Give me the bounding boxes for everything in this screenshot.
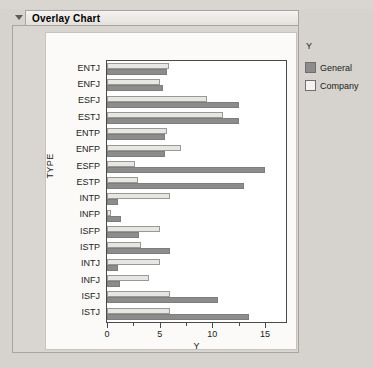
bar-general[interactable] xyxy=(107,232,139,238)
y-axis-tick-label: ISFJ xyxy=(81,292,100,301)
bar-group xyxy=(107,143,286,159)
panel-title: Overlay Chart xyxy=(26,13,100,24)
y-axis-tick-label: ENFJ xyxy=(78,80,101,89)
legend-title: Y xyxy=(305,41,367,51)
bar-group xyxy=(107,208,286,224)
overlay-chart-panel: Overlay Chart TYPE ENTJENFJESFJESTJENTPE… xyxy=(12,9,299,353)
bar-general[interactable] xyxy=(107,134,165,140)
bar-group xyxy=(107,94,286,110)
x-axis-tick-label: 0 xyxy=(104,329,109,339)
bar-general[interactable] xyxy=(107,69,167,75)
bar-general[interactable] xyxy=(107,85,163,91)
y-axis-tick-label: ESTJ xyxy=(78,113,100,122)
bar-group xyxy=(107,77,286,93)
legend-swatch-filled-icon xyxy=(305,62,316,73)
bar-group xyxy=(107,192,286,208)
bars-layer xyxy=(107,61,286,322)
page-background-top xyxy=(0,0,373,9)
panel-header[interactable]: Overlay Chart xyxy=(12,9,299,26)
chart-legend: Y General Company xyxy=(305,41,367,98)
x-axis-tick xyxy=(239,323,240,326)
x-axis-tick-label: 10 xyxy=(207,329,217,339)
bar-general[interactable] xyxy=(107,281,120,287)
y-axis-tick-label: INFP xyxy=(79,210,100,219)
y-axis-tick-label: ESFP xyxy=(76,162,100,171)
bar-group xyxy=(107,110,286,126)
x-axis: Y 051015 xyxy=(106,323,287,353)
bar-group xyxy=(107,289,286,305)
legend-swatch-outline-icon xyxy=(305,80,316,91)
bar-general[interactable] xyxy=(107,183,244,189)
bar-group xyxy=(107,273,286,289)
bar-general[interactable] xyxy=(107,314,249,320)
y-axis-tick-label: ISFP xyxy=(80,227,100,236)
bar-general[interactable] xyxy=(107,265,118,271)
bar-general[interactable] xyxy=(107,118,239,124)
bar-group xyxy=(107,257,286,273)
x-axis-tick xyxy=(265,323,266,328)
bar-group xyxy=(107,240,286,256)
x-axis-tick xyxy=(133,323,134,326)
legend-item-label: Company xyxy=(320,81,359,91)
x-axis-tick xyxy=(212,323,213,328)
bar-group xyxy=(107,159,286,175)
y-axis-tick-label: ENTJ xyxy=(78,64,101,73)
bar-general[interactable] xyxy=(107,102,239,108)
bar-general[interactable] xyxy=(107,167,265,173)
x-axis-tick xyxy=(160,323,161,328)
triangle-down-glyph xyxy=(15,15,23,20)
panel-body: TYPE ENTJENFJESFJESTJENTPENFPESFPESTPINT… xyxy=(12,25,299,353)
plot-area xyxy=(106,60,287,323)
bar-group xyxy=(107,126,286,142)
y-axis-tick-label: ESFJ xyxy=(78,96,100,105)
triangle-down-icon[interactable] xyxy=(12,9,25,26)
y-axis-tick-label: ISTJ xyxy=(81,308,100,317)
bar-group xyxy=(107,224,286,240)
bar-group xyxy=(107,306,286,322)
y-axis-tick-label: ENTP xyxy=(76,129,100,138)
panel-title-tab[interactable]: Overlay Chart xyxy=(25,10,299,26)
y-axis-tick-label: INFJ xyxy=(81,276,100,285)
chart-canvas: TYPE ENTJENFJESFJESTJENTPENFPESFPESTPINT… xyxy=(45,32,297,350)
bar-general[interactable] xyxy=(107,199,118,205)
y-axis-tick-label: ISTP xyxy=(80,243,100,252)
bar-group xyxy=(107,61,286,77)
bar-general[interactable] xyxy=(107,297,218,303)
legend-item-label: General xyxy=(320,63,352,73)
y-axis-tick-label: ESTP xyxy=(76,178,100,187)
y-axis-tick-label: INTJ xyxy=(81,259,100,268)
y-axis-tick-label: ENFP xyxy=(76,145,100,154)
x-axis-tick-label: 15 xyxy=(260,329,270,339)
x-axis-tick xyxy=(107,323,108,328)
legend-item[interactable]: Company xyxy=(305,80,367,91)
y-axis-category-labels: ENTJENFJESFJESTJENTPENFPESFPESTPINTPINFP… xyxy=(46,60,104,323)
legend-item[interactable]: General xyxy=(305,62,367,73)
bar-general[interactable] xyxy=(107,151,165,157)
x-axis-title: Y xyxy=(106,341,287,351)
bar-group xyxy=(107,175,286,191)
x-axis-tick-label: 5 xyxy=(157,329,162,339)
bar-general[interactable] xyxy=(107,248,170,254)
y-axis-tick-label: INTP xyxy=(79,194,100,203)
bar-general[interactable] xyxy=(107,216,121,222)
x-axis-tick xyxy=(186,323,187,326)
